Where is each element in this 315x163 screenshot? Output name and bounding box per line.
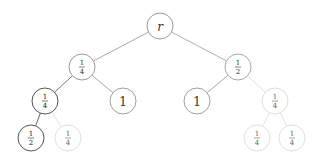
edge-LL-LLL	[36, 113, 41, 126]
tree-node-R: 12	[225, 54, 251, 80]
fraction-denominator: 2	[29, 139, 33, 147]
tree-node-RRR: 14	[279, 125, 305, 151]
edge-L-LL	[55, 76, 73, 92]
tree-node-r: r	[147, 13, 173, 39]
tree-edges	[36, 32, 287, 127]
edge-RR-RRR	[280, 113, 286, 126]
node-label: 1	[119, 95, 127, 109]
fraction-numerator: 1	[290, 130, 294, 138]
fraction-numerator: 1	[80, 59, 84, 67]
fraction-denominator: 4	[290, 139, 295, 147]
fraction-numerator: 1	[273, 93, 277, 101]
fraction-numerator: 1	[66, 130, 70, 138]
tree-node-L: 14	[69, 54, 95, 80]
fraction-denominator: 4	[66, 139, 71, 147]
fraction-denominator: 2	[236, 68, 240, 76]
fraction-denominator: 4	[80, 68, 85, 76]
tree-node-LL: 14	[32, 88, 58, 114]
fraction-numerator: 1	[236, 59, 240, 67]
edge-R-RR	[248, 76, 266, 92]
edge-RR-RRL	[263, 113, 270, 127]
edge-r-L	[94, 32, 149, 61]
fraction-denominator: 4	[255, 139, 260, 147]
tree-node-LLL: 12	[18, 125, 44, 151]
edge-r-R	[172, 32, 227, 61]
node-label: 1	[193, 95, 201, 109]
edge-LL-LLR	[52, 112, 61, 127]
fraction-numerator: 1	[255, 130, 259, 138]
fraction-denominator: 4	[273, 102, 278, 110]
fraction-numerator: 1	[43, 93, 47, 101]
tree-node-RL: 1	[184, 88, 210, 114]
tree-node-LR: 1	[110, 88, 136, 114]
fraction-denominator: 4	[43, 102, 48, 110]
edge-R-RL	[207, 75, 228, 92]
fraction-numerator: 1	[29, 130, 33, 138]
tree-diagram: r141214111412141414	[0, 0, 315, 163]
tree-node-RRL: 14	[244, 125, 270, 151]
tree-node-RR: 14	[262, 88, 288, 114]
tree-node-LLR: 14	[55, 125, 81, 151]
tree-nodes: r141214111412141414	[18, 13, 305, 151]
edge-L-LR	[92, 75, 113, 92]
